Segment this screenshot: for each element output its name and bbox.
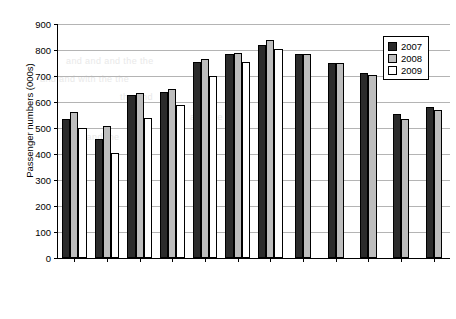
bar-2007-april xyxy=(160,92,168,258)
bar-2009-june xyxy=(242,62,250,258)
legend-item-2008: 2008 xyxy=(388,52,422,64)
legend-item-2007: 2007 xyxy=(388,40,422,52)
bar-2007-june xyxy=(225,54,233,258)
bar-chart: Passenger numbers (000s) 010020030040050… xyxy=(0,0,456,319)
bar-2008-september xyxy=(336,63,344,258)
bar-2008-december xyxy=(434,110,442,258)
bar-2008-february xyxy=(103,126,111,258)
x-axis-tick xyxy=(172,258,173,262)
swatch-2008 xyxy=(388,54,397,63)
bar-2007-november xyxy=(393,114,401,258)
x-axis-tick xyxy=(368,258,369,262)
bar-2007-march xyxy=(127,95,135,258)
bar-2007-february xyxy=(95,139,103,258)
bar-2007-january xyxy=(62,119,70,258)
bar-2009-february xyxy=(111,153,119,258)
bar-2008-october xyxy=(368,75,376,258)
bar-group: October xyxy=(352,24,385,258)
bar-2009-april xyxy=(176,105,184,258)
bar-2008-may xyxy=(201,59,209,258)
bar-2008-april xyxy=(168,89,176,258)
bar-2008-june xyxy=(234,53,242,258)
y-axis-tick xyxy=(54,258,58,259)
x-axis-tick xyxy=(140,258,141,262)
y-axis-tick-label: 400 xyxy=(35,149,51,160)
bar-2007-december xyxy=(426,107,434,258)
bar-group: April xyxy=(156,24,189,258)
bar-group: January xyxy=(58,24,91,258)
y-axis-tick-label: 500 xyxy=(35,123,51,134)
bar-2009-july xyxy=(274,49,282,258)
legend-item-2009: 2009 xyxy=(388,64,422,76)
bar-2008-july xyxy=(266,40,274,258)
bar-group: August xyxy=(287,24,320,258)
bar-group: May xyxy=(189,24,222,258)
x-axis-tick xyxy=(74,258,75,262)
legend-label: 2009 xyxy=(401,65,422,76)
bar-2007-july xyxy=(258,45,266,258)
bar-2009-may xyxy=(209,76,217,258)
bar-group: July xyxy=(254,24,287,258)
bar-group: February xyxy=(91,24,124,258)
bar-2007-october xyxy=(360,73,368,258)
bar-group: June xyxy=(221,24,254,258)
y-axis-tick-label: 800 xyxy=(35,45,51,56)
x-axis-tick xyxy=(270,258,271,262)
y-axis-tick-label: 0 xyxy=(46,253,51,264)
x-axis-tick xyxy=(336,258,337,262)
legend-label: 2008 xyxy=(401,53,422,64)
bar-group: September xyxy=(319,24,352,258)
swatch-2009 xyxy=(388,66,397,75)
y-axis-tick-label: 900 xyxy=(35,19,51,30)
legend-label: 2007 xyxy=(401,41,422,52)
y-axis-title: Passenger numbers (000s) xyxy=(24,41,35,201)
y-axis-tick-label: 600 xyxy=(35,97,51,108)
y-axis-tick-label: 200 xyxy=(35,201,51,212)
x-axis-tick xyxy=(238,258,239,262)
bar-2007-may xyxy=(193,62,201,258)
x-axis-tick xyxy=(401,258,402,262)
y-axis-tick-label: 300 xyxy=(35,175,51,186)
bar-2008-march xyxy=(136,93,144,258)
x-axis-tick xyxy=(434,258,435,262)
x-axis-tick xyxy=(303,258,304,262)
x-axis-tick xyxy=(107,258,108,262)
bar-2009-january xyxy=(78,128,86,258)
x-axis-tick xyxy=(205,258,206,262)
bar-2008-november xyxy=(401,119,409,258)
bar-group: March xyxy=(123,24,156,258)
bar-2009-march xyxy=(144,118,152,258)
bar-2007-september xyxy=(328,63,336,258)
bar-2008-august xyxy=(303,54,311,258)
y-axis-tick-label: 100 xyxy=(35,227,51,238)
swatch-2007 xyxy=(388,42,397,51)
bar-2007-august xyxy=(295,54,303,258)
bar-2008-january xyxy=(70,112,78,258)
chart-legend: 200720082009 xyxy=(383,36,429,80)
y-axis-tick-label: 700 xyxy=(35,71,51,82)
